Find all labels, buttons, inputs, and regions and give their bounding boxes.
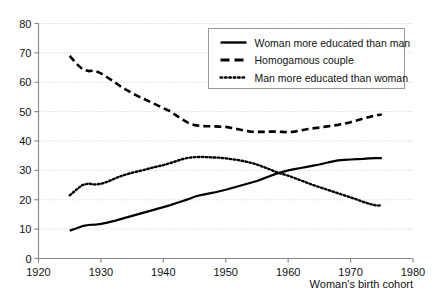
line-chart: 01020304050607080 1920193019401950196019… xyxy=(0,0,433,305)
x-axis-title: Woman's birth cohort xyxy=(310,278,413,290)
legend-label: Woman more educated than man xyxy=(255,37,411,49)
y-tick-label: 80 xyxy=(19,18,31,30)
chart-figure: 01020304050607080 1920193019401950196019… xyxy=(0,0,433,305)
x-tick-label: 1970 xyxy=(338,266,362,278)
x-tick-label: 1950 xyxy=(214,266,238,278)
y-tick-label: 10 xyxy=(19,223,31,235)
y-tick-label: 20 xyxy=(19,194,31,206)
legend: Woman more educated than manHomogamous c… xyxy=(209,29,411,89)
y-tick-label: 70 xyxy=(19,47,31,59)
x-tick-label: 1930 xyxy=(89,266,113,278)
x-tick-label: 1920 xyxy=(26,266,50,278)
y-tick-label: 40 xyxy=(19,135,31,147)
y-tick-label: 0 xyxy=(25,253,31,265)
y-tick-label: 60 xyxy=(19,76,31,88)
y-tick-label: 30 xyxy=(19,164,31,176)
legend-label: Homogamous couple xyxy=(255,54,354,66)
x-tick-label: 1960 xyxy=(276,266,300,278)
legend-label: Man more educated than woman xyxy=(255,72,409,84)
x-tick-label: 1940 xyxy=(151,266,175,278)
y-tick-label: 50 xyxy=(19,106,31,118)
x-tick-label: 1980 xyxy=(401,266,425,278)
y-axis-tick-labels: 01020304050607080 xyxy=(19,18,31,265)
